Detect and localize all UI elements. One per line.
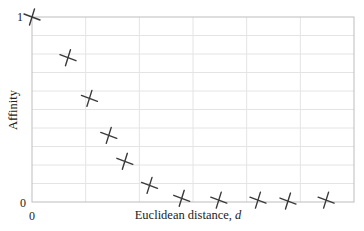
y-axis-label: Affinity — [6, 89, 20, 130]
y-tick-label-0: 0 — [20, 196, 26, 210]
x-axis-label-text: Euclidean distance, — [135, 208, 235, 222]
data-point-marker — [60, 50, 76, 66]
data-point-marker — [250, 192, 266, 208]
x-tick-label-0: 0 — [29, 209, 35, 223]
x-axis-label-variable: d — [235, 208, 242, 222]
y-tick-label-1: 1 — [17, 10, 23, 24]
data-point-marker — [117, 153, 133, 169]
data-point-marker — [142, 177, 158, 193]
x-axis-label: Euclidean distance, d — [135, 208, 242, 222]
data-point-marker — [318, 192, 334, 208]
data-point-marker — [211, 192, 227, 208]
affinity-scatter-chart: 1 0 0 Affinity Euclidean distance, d — [0, 0, 364, 231]
data-point-marker — [280, 193, 296, 209]
data-point-marker — [81, 90, 97, 106]
grid-lines — [32, 17, 354, 202]
data-point-marker — [101, 127, 117, 143]
data-point-marker — [174, 190, 190, 206]
